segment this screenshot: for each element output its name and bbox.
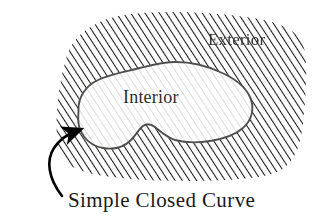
figure-canvas <box>0 0 320 218</box>
exterior-label: Exterior <box>208 31 265 48</box>
simple-closed-curve-caption: Simple Closed Curve <box>68 190 255 211</box>
jordan-curve-figure: Exterior Interior Simple Closed Curve <box>0 0 320 218</box>
interior-label: Interior <box>123 88 179 106</box>
